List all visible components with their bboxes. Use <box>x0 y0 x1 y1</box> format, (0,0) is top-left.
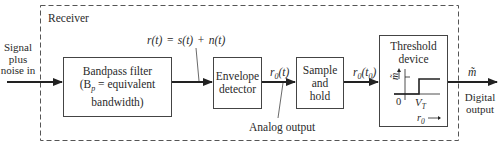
threshold-y-axis-label: m̃ <box>388 73 401 80</box>
sample-and-hold-block: Sample and hold <box>296 57 344 109</box>
digital-output-label: Digital output <box>461 91 499 115</box>
r0t0-label: r0(t0) <box>353 66 376 83</box>
bandpass-filter-block: Bandpass filter (Bp = equivalent bandwid… <box>63 57 172 117</box>
receiver-block-diagram: Receiver Signal plus noise in Bandpass f… <box>0 0 502 146</box>
rt-equation-label: r(t) = s(t) + n(t) <box>147 34 225 47</box>
threshold-device-block: Threshold device <box>379 35 448 127</box>
m-tilde-label: m̃ <box>468 66 476 79</box>
analog-output-leader-line <box>278 83 283 118</box>
threshold-origin-label: 0 <box>396 95 401 108</box>
threshold-x-axis-label: r0 <box>417 111 425 128</box>
r0t-label: r0(t) <box>270 66 289 83</box>
analog-output-label: Analog output <box>249 121 315 134</box>
rt-leader-line <box>196 48 199 81</box>
receiver-label: Receiver <box>48 12 89 25</box>
input-label: Signal plus noise in <box>0 42 36 77</box>
envelope-detector-block: Envelope detector <box>213 57 262 109</box>
